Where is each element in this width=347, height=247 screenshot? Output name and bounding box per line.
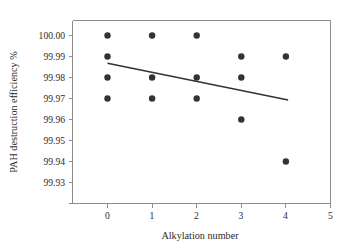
chart-canvas: 100.00 99.99 99.98 99.97 99.96 99.95 99.… — [0, 0, 347, 247]
y-tick-label: 99.98 — [43, 72, 65, 83]
data-point — [194, 32, 200, 38]
data-point — [238, 74, 244, 80]
y-tick-label: 99.95 — [43, 135, 65, 146]
data-point — [149, 32, 155, 38]
data-point — [104, 95, 110, 101]
data-point — [104, 32, 110, 38]
y-tick-label: 99.93 — [43, 177, 65, 188]
x-tick-label: 4 — [283, 210, 288, 221]
data-point — [149, 74, 155, 80]
y-tick-label: 99.96 — [43, 114, 65, 125]
x-tick-label: 0 — [105, 210, 110, 221]
y-tick-label: 99.94 — [43, 156, 65, 167]
data-point — [149, 95, 155, 101]
scatter-chart-figure: 100.00 99.99 99.98 99.97 99.96 99.95 99.… — [0, 0, 347, 247]
x-axis-title: Alkylation number — [161, 230, 239, 241]
y-tick-label: 99.99 — [43, 51, 65, 62]
data-point — [283, 53, 289, 59]
data-point — [238, 53, 244, 59]
x-tick-label: 5 — [328, 210, 333, 221]
y-tick-label: 100.00 — [39, 30, 66, 41]
data-point — [238, 116, 244, 122]
data-point — [283, 158, 289, 164]
y-tick-label: 99.97 — [43, 93, 65, 104]
data-point — [104, 74, 110, 80]
data-point — [194, 95, 200, 101]
x-tick-label: 2 — [194, 210, 199, 221]
data-point — [194, 74, 200, 80]
data-point — [104, 53, 110, 59]
x-tick-label: 3 — [239, 210, 244, 221]
y-axis-title: PAH destruction efficiency % — [8, 51, 19, 173]
x-tick-label: 1 — [150, 210, 155, 221]
